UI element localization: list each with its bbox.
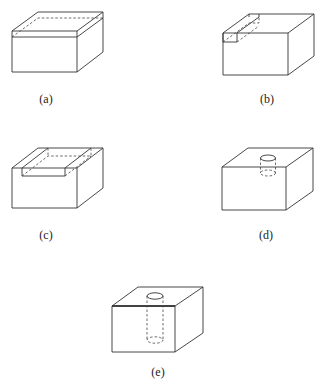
- figure-b-box: [223, 14, 314, 75]
- figure-b-label: (b): [260, 92, 274, 107]
- figure-c-box: [12, 148, 103, 208]
- figure-c-label: (c): [39, 228, 52, 243]
- diagram-canvas: [0, 0, 317, 384]
- figure-a-box: [12, 12, 103, 72]
- figure-e-label: (e): [151, 365, 164, 380]
- figure-e-box: [112, 287, 203, 352]
- figure-d-label: (d): [259, 228, 273, 243]
- figure-a-label: (a): [39, 92, 52, 107]
- figure-d-box: [222, 148, 313, 210]
